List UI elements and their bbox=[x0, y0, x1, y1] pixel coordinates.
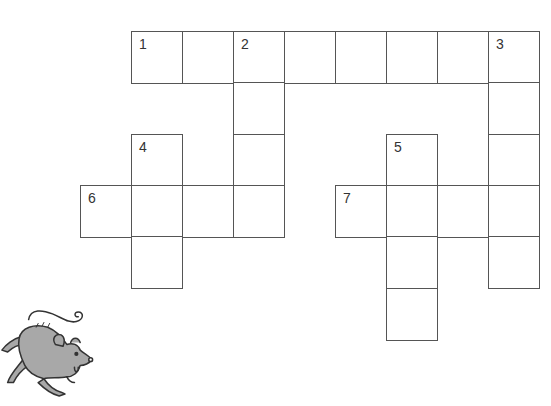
crossword-cell[interactable] bbox=[335, 31, 387, 84]
crossword-cell[interactable] bbox=[488, 134, 540, 187]
clue-number: 6 bbox=[88, 191, 96, 205]
crossword-cell[interactable] bbox=[233, 82, 285, 135]
clue-number: 5 bbox=[394, 140, 402, 154]
crossword-cell[interactable] bbox=[131, 236, 183, 289]
mouse-icon bbox=[0, 300, 105, 406]
crossword-cell[interactable] bbox=[386, 288, 438, 341]
crossword-cell[interactable] bbox=[386, 185, 438, 238]
crossword-cell[interactable]: 1 bbox=[131, 31, 183, 84]
crossword-cell[interactable]: 3 bbox=[488, 31, 540, 84]
crossword-cell[interactable]: 4 bbox=[131, 134, 183, 187]
crossword-cell[interactable] bbox=[233, 134, 285, 187]
crossword-cell[interactable] bbox=[488, 185, 540, 238]
clue-number: 1 bbox=[139, 37, 147, 51]
clue-number: 3 bbox=[496, 37, 504, 51]
crossword-cell[interactable] bbox=[131, 185, 183, 238]
crossword-cell[interactable] bbox=[284, 31, 336, 84]
crossword-cell[interactable] bbox=[437, 31, 489, 84]
crossword-cell[interactable] bbox=[386, 236, 438, 289]
clue-number: 2 bbox=[241, 37, 249, 51]
crossword-cell[interactable] bbox=[182, 185, 234, 238]
crossword-cell[interactable]: 6 bbox=[80, 185, 132, 238]
crossword-cell[interactable] bbox=[488, 236, 540, 289]
crossword-cell[interactable] bbox=[233, 185, 285, 238]
crossword-cell[interactable] bbox=[437, 185, 489, 238]
crossword-cell[interactable] bbox=[386, 31, 438, 84]
crossword-cell[interactable]: 5 bbox=[386, 134, 438, 187]
crossword-cell[interactable] bbox=[182, 31, 234, 84]
clue-number: 4 bbox=[139, 140, 147, 154]
crossword-cell[interactable]: 7 bbox=[335, 185, 387, 238]
clue-number: 7 bbox=[343, 191, 351, 205]
crossword-cell[interactable] bbox=[488, 82, 540, 135]
crossword-cell[interactable]: 2 bbox=[233, 31, 285, 84]
